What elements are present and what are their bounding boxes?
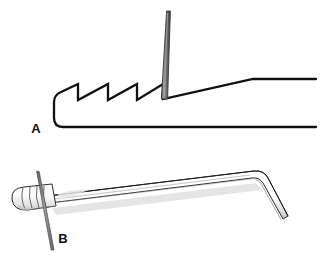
panel-a-group: A — [31, 11, 316, 136]
sawtooth-profile — [54, 79, 316, 108]
panel-b-group: B — [12, 171, 288, 250]
figure-root: A — [0, 0, 322, 268]
ribbed-handle — [12, 184, 56, 210]
lower-base-line — [54, 108, 316, 127]
panel-a-label: A — [31, 121, 41, 136]
needle-b-shape — [37, 171, 54, 250]
vertical-needle — [161, 11, 170, 99]
transverse-needle — [37, 171, 54, 250]
shaft-highlight-line — [55, 175, 250, 199]
instrument-diagram-svg: A — [0, 0, 322, 268]
panel-b-label: B — [58, 231, 67, 246]
